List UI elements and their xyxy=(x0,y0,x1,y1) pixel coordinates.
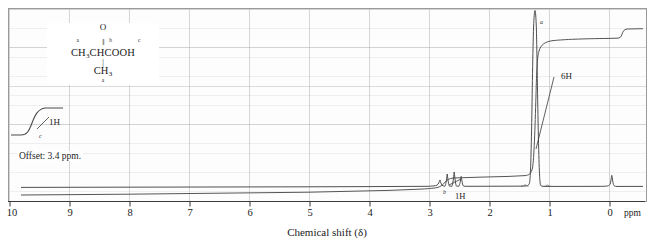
axis-tick-9: 9 xyxy=(67,207,72,218)
leader-line-6h xyxy=(536,77,554,149)
peak-marker-b: b xyxy=(443,189,446,195)
axis-tick-2: 2 xyxy=(487,207,492,218)
axis-tick-1: 1 xyxy=(547,207,552,218)
offset-note: Offset: 3.4 ppm. xyxy=(17,151,83,161)
structure-ch3-branch: CH xyxy=(94,65,109,76)
axis-tick-8: 8 xyxy=(127,207,132,218)
nmr-spectrum-figure: O abc ‖ CH3CHCOOH | CH3 a a b c 1H 6H 1H… xyxy=(0,0,654,247)
axis-tick-7: 7 xyxy=(187,207,192,218)
chemical-shift-axis: 10 9 8 7 6 5 4 3 2 1 0 ppm xyxy=(0,200,654,224)
structure-branch-label: a xyxy=(102,78,104,85)
structure-inset: O abc ‖ CH3CHCOOH | CH3 a xyxy=(47,23,159,85)
axis-tick-0: 0 xyxy=(607,207,612,218)
axis-unit-label: ppm xyxy=(624,208,641,218)
structure-label-a: a xyxy=(77,38,103,44)
axis-tick-10: 10 xyxy=(7,207,18,218)
structure-oxygen: O xyxy=(100,23,107,32)
peak-marker-a: a xyxy=(540,19,543,25)
axis-tick-5: 5 xyxy=(307,207,312,218)
leader-line-1h-offset xyxy=(37,117,49,129)
integral-marker-c: c xyxy=(39,133,42,139)
axis-tick-6: 6 xyxy=(247,207,252,218)
spectrum-plot-area: O abc ‖ CH3CHCOOH | CH3 a a b c 1H 6H 1H… xyxy=(8,8,647,202)
structure-branch: CH3 xyxy=(94,66,113,78)
structure-ch3-branch-sub: 3 xyxy=(109,70,113,78)
axis-tick-3: 3 xyxy=(427,207,432,218)
structure-chcooh: CHCOOH xyxy=(90,47,136,58)
axis-caption: Chemical shift (δ) xyxy=(0,226,654,238)
integral-label-1h-offset: 1H xyxy=(49,117,60,127)
axis-tick-4: 4 xyxy=(367,207,372,218)
axis-ticks xyxy=(0,200,654,224)
integral-label-6h: 6H xyxy=(561,71,572,81)
structure-label-c: c xyxy=(119,38,141,44)
structure-label-b: b xyxy=(103,38,119,44)
structure-ch3-left: CH xyxy=(71,47,86,58)
